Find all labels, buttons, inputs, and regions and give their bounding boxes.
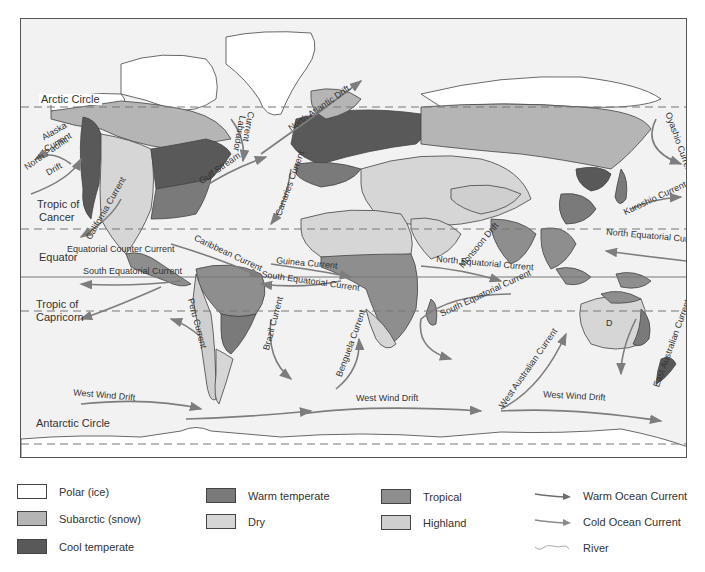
highland-swatch xyxy=(381,515,411,530)
legend-label: Cold Ocean Current xyxy=(583,516,681,528)
legend-label: Dry xyxy=(248,516,265,528)
dry-swatch xyxy=(206,514,236,529)
mediterranean xyxy=(296,162,361,187)
legend-item-river: River xyxy=(533,542,609,554)
legend-item-polar: Polar (ice) xyxy=(17,484,109,499)
legend-item-warm-current: Warm Ocean Current xyxy=(533,490,687,502)
legend-item-highland: Highland xyxy=(381,515,466,530)
south-equatorial-current-west-label: South Equatorial Current xyxy=(83,267,182,276)
greenland xyxy=(226,32,315,115)
subarctic-swatch xyxy=(17,511,47,526)
world-map: Arctic Circle Tropic of Cancer Equator T… xyxy=(20,18,687,458)
south-america-dry xyxy=(215,349,233,404)
legend-label: Tropical xyxy=(423,491,462,503)
tropical-swatch xyxy=(381,489,411,504)
tropic-capricorn-label-1: Tropic of xyxy=(36,299,78,310)
dry-region-marker: D xyxy=(606,319,613,328)
legend-item-tropical: Tropical xyxy=(381,489,462,504)
siberia-north xyxy=(421,77,661,108)
arctic-circle-label: Arctic Circle xyxy=(39,94,102,105)
tropic-cancer-label-2: Cancer xyxy=(39,212,74,223)
legend-item-subarctic: Subarctic (snow) xyxy=(17,511,141,526)
legend-label: Cool temperate xyxy=(59,541,134,553)
east-asia-warm xyxy=(559,194,596,224)
warm-temperate-swatch xyxy=(206,488,236,503)
legend-item-cold-current: Cold Ocean Current xyxy=(533,516,681,528)
cold-current-arrow-icon xyxy=(533,516,573,528)
warm-current-arrow-icon xyxy=(533,490,573,502)
new-guinea xyxy=(616,273,651,289)
legend-label: Warm Ocean Current xyxy=(583,490,687,502)
legend: Polar (ice) Subarctic (snow) Cool temper… xyxy=(0,470,705,572)
east-asia-cool xyxy=(576,167,611,191)
legend-label: Subarctic (snow) xyxy=(59,513,141,525)
cool-temperate-swatch xyxy=(17,539,47,554)
polar-swatch xyxy=(17,484,47,499)
legend-label: Polar (ice) xyxy=(59,486,109,498)
south-america-warm-temperate xyxy=(221,314,256,354)
tropic-capricorn-label-2: Capricorn xyxy=(36,312,84,323)
southeast-asia-tropical xyxy=(541,228,576,269)
legend-item-warm-temperate: Warm temperate xyxy=(206,488,330,503)
west-wind-drift-label-2: West Wind Drift xyxy=(356,394,418,403)
north-america-west-coast xyxy=(80,117,101,219)
legend-label: Highland xyxy=(423,517,466,529)
legend-label: River xyxy=(583,542,609,554)
antarctica xyxy=(21,428,687,459)
legend-label: Warm temperate xyxy=(248,490,330,502)
river-icon xyxy=(533,542,573,554)
legend-item-dry: Dry xyxy=(206,514,265,529)
legend-item-cool-temperate: Cool temperate xyxy=(17,539,134,554)
africa-dry xyxy=(301,210,412,258)
antarctic-circle-label: Antarctic Circle xyxy=(34,418,112,429)
equatorial-counter-current-label: Equatorial Counter Current xyxy=(67,245,175,254)
indonesia xyxy=(556,268,591,285)
japan xyxy=(615,169,627,204)
tropic-cancer-label-1: Tropic of xyxy=(37,199,79,210)
